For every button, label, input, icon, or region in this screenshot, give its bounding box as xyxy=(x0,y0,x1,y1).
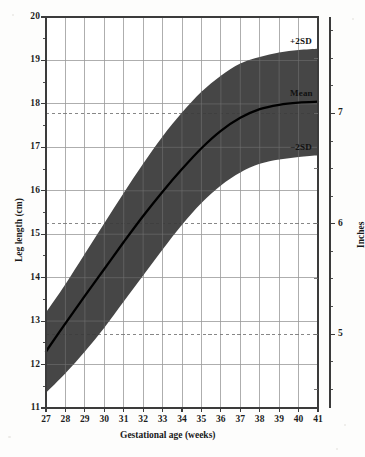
y2-axis-tick-label: 6 xyxy=(338,218,343,228)
paper-speck xyxy=(8,436,11,438)
y-axis-tick-label: 20 xyxy=(18,11,40,21)
paper-speck xyxy=(352,18,354,20)
annotation-minus-2sd: −2SD xyxy=(290,142,312,152)
y-axis-tick-label: 16 xyxy=(18,185,40,195)
paper-speck xyxy=(336,448,338,450)
y-axis-tick-label: 18 xyxy=(18,98,40,108)
x-axis-tick-label: 41 xyxy=(307,414,329,424)
y-axis-title: Leg length (cm) xyxy=(14,198,24,262)
annotation-mean: Mean xyxy=(290,88,313,98)
y-axis-tick-label: 14 xyxy=(18,272,40,282)
annotation-plus-2sd: +2SD xyxy=(290,36,312,46)
y2-axis-tick-label: 7 xyxy=(338,107,343,117)
plot-area xyxy=(0,0,365,457)
paper-speck xyxy=(344,424,346,426)
x-axis-title: Gestational age (weeks) xyxy=(120,430,216,440)
chart-figure: 11121314151617181920 2728293031323334353… xyxy=(0,0,365,457)
paper-speck xyxy=(12,14,14,16)
y-axis-tick-label: 19 xyxy=(18,54,40,64)
y-axis-tick-label: 12 xyxy=(18,359,40,369)
y-axis-tick-label: 17 xyxy=(18,141,40,151)
growth-chart-svg xyxy=(0,0,365,457)
y2-axis-title: Inches xyxy=(356,222,365,248)
y2-axis-tick-label: 5 xyxy=(338,328,343,338)
y-axis-tick-label: 11 xyxy=(18,402,40,412)
y-axis-tick-label: 13 xyxy=(18,315,40,325)
